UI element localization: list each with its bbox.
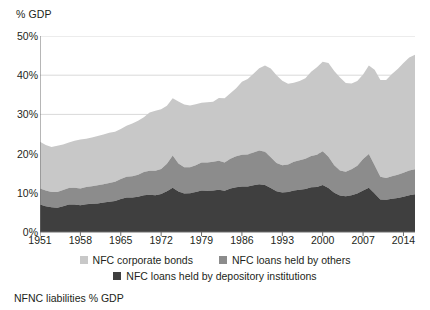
chart-figure: % GDP 50%40%30%20%10%0% 1951195819651972… [0, 0, 430, 310]
x-axis-tick-label: 2014 [392, 235, 415, 246]
plot-area [40, 36, 415, 232]
y-axis-tick-label: 30% [4, 109, 38, 120]
y-axis-tick-label: 40% [4, 70, 38, 81]
x-axis-tick-label: 1951 [28, 235, 51, 246]
legend-row-secondary: NFC loans held by depository institution… [0, 268, 430, 284]
legend-item-nfc-corporate-bonds: NFC corporate bonds [80, 255, 193, 266]
legend-row-primary: NFC corporate bonds NFC loans held by ot… [0, 252, 430, 268]
legend-item-label: NFC corporate bonds [93, 255, 193, 266]
legend-item-nfc-loans-held-by-others: NFC loans held by others [219, 255, 350, 266]
legend-swatch-icon [113, 272, 121, 280]
legend-swatch-icon [219, 256, 227, 264]
x-axis-tick-label: 1972 [149, 235, 172, 246]
x-axis-tick-label: 1958 [69, 235, 92, 246]
y-axis-tick-label: 50% [4, 31, 38, 42]
legend-item-label: NFC loans held by others [232, 255, 350, 266]
legend-item-nfc-loans-held-by-depository-institutions: NFC loans held by depository institution… [113, 271, 316, 282]
x-axis-tick-labels: 1951195819651972197919861993200020072014 [0, 235, 430, 251]
y-axis-tick-label: 10% [4, 188, 38, 199]
x-axis-tick-label: 2000 [311, 235, 334, 246]
chart-legend: NFC corporate bonds NFC loans held by ot… [0, 252, 430, 284]
legend-item-label: NFC loans held by depository institution… [126, 271, 316, 282]
x-axis-tick-label: 1986 [230, 235, 253, 246]
figure-caption: NFNC liabilities % GDP [14, 292, 124, 304]
x-axis-tick-label: 2007 [351, 235, 374, 246]
x-axis-tick-label: 1979 [190, 235, 213, 246]
x-axis-tick-label: 1993 [271, 235, 294, 246]
y-axis-tick-labels: 50%40%30%20%10%0% [0, 0, 38, 270]
stacked-area-svg [40, 36, 415, 237]
x-axis-tick-label: 1965 [109, 235, 132, 246]
legend-swatch-icon [80, 256, 88, 264]
y-axis-tick-label: 20% [4, 149, 38, 160]
